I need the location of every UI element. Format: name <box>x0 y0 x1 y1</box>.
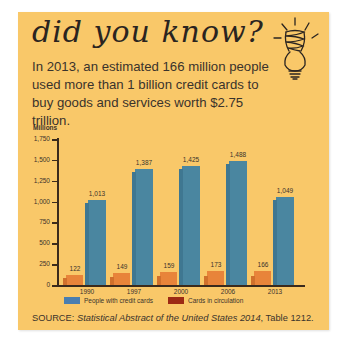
bar-cards-in-circulation <box>113 273 130 285</box>
bar-value-label: 1,387 <box>129 159 159 166</box>
bar-cards-in-circulation <box>207 271 224 285</box>
y-tick-label: 1,250 <box>20 177 50 184</box>
x-tick-label: 2000 <box>166 288 196 295</box>
bar-people-with-credit-cards <box>135 169 153 285</box>
source-title: Statistical Abstract of the United State… <box>77 313 261 323</box>
legend-label: Cards in circulation <box>188 297 243 304</box>
y-tick-label: 1,500 <box>20 156 50 163</box>
y-tick <box>52 202 58 204</box>
legend-item-cards: Cards in circulation <box>168 297 243 304</box>
bar-people-with-credit-cards <box>182 166 200 285</box>
source-citation: SOURCE: Statistical Abstract of the Unit… <box>32 313 314 323</box>
y-tick <box>52 160 58 162</box>
y-tick <box>52 285 58 287</box>
y-axis-title: Millions <box>33 124 57 131</box>
legend-item-people: People with credit cards <box>64 297 153 304</box>
y-tick <box>52 264 58 266</box>
y-tick-label: 1,750 <box>20 135 50 142</box>
legend-swatch-blue <box>64 297 80 304</box>
bar-value-label: 1,013 <box>82 190 112 197</box>
y-tick-label: 250 <box>20 260 50 267</box>
legend-swatch-red <box>168 297 184 304</box>
y-tick-label: 500 <box>20 239 50 246</box>
bar-chart: Millions 02505007501,0001,2501,5001,7501… <box>18 12 329 330</box>
bar-value-label: 1,488 <box>223 151 253 158</box>
y-tick <box>52 139 58 141</box>
bar-people-with-credit-cards <box>229 161 247 285</box>
x-tick-label: 2013 <box>260 288 290 295</box>
x-tick-label: 1997 <box>119 288 149 295</box>
bar-value-label: 1,425 <box>176 156 206 163</box>
x-axis <box>57 285 305 287</box>
y-tick-label: 0 <box>20 281 50 288</box>
x-tick-label: 2006 <box>213 288 243 295</box>
x-tick-label: 1990 <box>72 288 102 295</box>
bar-cards-in-circulation <box>254 271 271 285</box>
bar-cards-in-circulation <box>160 272 177 285</box>
legend-label: People with credit cards <box>84 297 153 304</box>
bar-people-with-credit-cards <box>276 197 294 285</box>
y-tick-label: 1,000 <box>20 198 50 205</box>
bar-people-with-credit-cards <box>88 200 106 285</box>
y-tick <box>52 181 58 183</box>
y-tick-label: 750 <box>20 218 50 225</box>
bar-value-label: 1,049 <box>270 187 300 194</box>
bar-cards-in-circulation <box>66 275 83 285</box>
did-you-know-card: did you know? In 2013, an estimated 166 … <box>18 12 329 330</box>
y-tick <box>52 243 58 245</box>
y-tick <box>52 222 58 224</box>
